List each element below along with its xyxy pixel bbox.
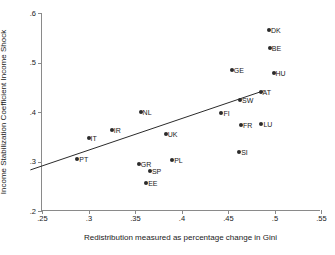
data-point-hu: HU	[272, 71, 276, 75]
data-point-it: IT	[87, 136, 91, 140]
data-point-at: AT	[259, 90, 263, 94]
y-axis-tick: .3	[38, 162, 42, 163]
x-axis-tick-label: .5	[272, 215, 278, 223]
data-point-label: GE	[234, 67, 244, 74]
x-axis-tick-label: .4	[179, 215, 185, 223]
x-axis-label: Redistribution measured as percentage ch…	[41, 234, 320, 242]
x-axis-tick-label: .35	[130, 215, 140, 223]
data-point-lu: LU	[259, 122, 263, 126]
data-point-label: IT	[91, 135, 97, 142]
y-axis-tick-label: .2	[30, 208, 36, 216]
data-point-ir: IR	[110, 128, 114, 132]
data-point-fi: FI	[219, 111, 223, 115]
x-axis-tick: .25	[42, 210, 43, 214]
data-point-label: FR	[243, 121, 252, 128]
data-point-sw: SW	[238, 98, 242, 102]
data-point-sp: SP	[148, 169, 152, 173]
x-axis-tick: .35	[135, 210, 136, 214]
data-point-nl: NL	[139, 110, 143, 114]
y-axis-tick-label: .3	[30, 158, 36, 166]
data-point-pl: PL	[170, 158, 174, 162]
data-point-dk: DK	[267, 28, 271, 32]
x-axis-tick-label: .3	[86, 215, 92, 223]
data-point-label: BE	[272, 45, 281, 52]
data-point-label: PT	[79, 156, 88, 163]
data-point-fr: FR	[239, 123, 243, 127]
y-axis-tick-label: .6	[30, 10, 36, 18]
y-axis-tick-label: .5	[30, 59, 36, 67]
data-point-uk: UK	[164, 132, 168, 136]
y-axis-tick: .4	[38, 112, 42, 113]
x-axis-tick-label: .55	[316, 215, 326, 223]
data-point-label: GR	[141, 161, 152, 168]
data-point-label: FI	[223, 109, 229, 116]
data-point-gr: GR	[137, 162, 141, 166]
plot-area: .2.3.4.5.6 .25.3.35.4.45.5.55 PTITIRGRNL…	[41, 13, 320, 211]
data-point-label: HU	[276, 69, 286, 76]
data-point-label: AT	[263, 88, 271, 95]
data-point-label: UK	[168, 131, 178, 138]
data-point-label: LU	[263, 120, 272, 127]
data-point-label: SW	[242, 97, 253, 104]
x-axis-tick: .4	[182, 210, 183, 214]
data-point-label: EE	[148, 180, 157, 187]
y-axis-tick: .5	[38, 63, 42, 64]
y-axis-tick-label: .4	[30, 109, 36, 117]
scatter-plot-figure: .2.3.4.5.6 .25.3.35.4.45.5.55 PTITIRGRNL…	[0, 0, 335, 255]
x-axis-tick: .3	[89, 210, 90, 214]
data-point-label: SP	[152, 168, 161, 175]
x-axis-tick: .5	[275, 210, 276, 214]
data-point-si: SI	[237, 150, 241, 154]
data-point-label: NL	[143, 109, 152, 116]
x-axis-tick: .55	[321, 210, 322, 214]
data-point-be: BE	[268, 46, 272, 50]
x-axis-tick-label: .45	[223, 215, 233, 223]
x-axis-tick-label: .25	[37, 215, 47, 223]
data-point-label: SI	[241, 148, 248, 155]
data-point-label: IR	[114, 127, 121, 134]
linear-fit-line	[42, 13, 321, 211]
data-point-label: PL	[174, 156, 183, 163]
data-point-ee: EE	[144, 181, 148, 185]
data-point-pt: PT	[75, 157, 79, 161]
y-axis-tick: .6	[38, 13, 42, 14]
y-axis-label: Income Stabilization Coefficient Income …	[0, 13, 12, 211]
data-point-label: DK	[271, 27, 281, 34]
data-point-ge: GE	[230, 68, 234, 72]
x-axis-tick: .45	[228, 210, 229, 214]
